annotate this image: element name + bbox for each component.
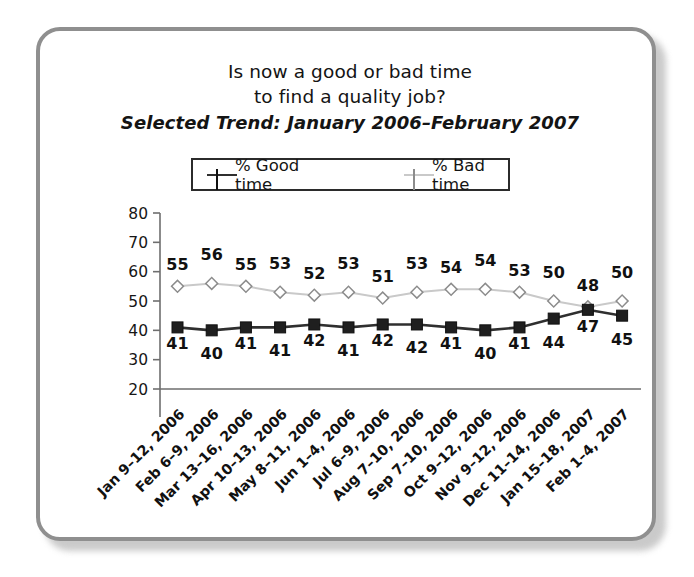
data-point-label: 42 (406, 338, 428, 357)
data-point-marker (309, 319, 320, 330)
data-point-marker (206, 277, 218, 289)
data-point-label: 41 (440, 334, 462, 353)
data-point-marker (343, 322, 354, 333)
y-tick-label: 50 (128, 293, 148, 311)
data-point-label: 54 (440, 258, 462, 277)
data-point-marker (275, 322, 286, 333)
data-point-label: 41 (508, 334, 530, 353)
data-point-marker (582, 304, 593, 315)
line-chart-svg: 20304050607080 5556555352535153545453504… (40, 31, 660, 545)
data-point-label: 47 (577, 317, 599, 336)
data-point-marker (445, 283, 457, 295)
y-tick-label: 40 (128, 322, 148, 340)
data-point-marker (411, 286, 423, 298)
data-point-marker (343, 286, 355, 298)
data-point-marker (172, 322, 183, 333)
x-tick-labels: Jan 9–12, 2006Feb 6–9, 2006Mar 13–16, 20… (93, 406, 632, 511)
data-labels-bad-time: 5556555352535153545453504850 (166, 245, 633, 294)
series-bad-time (172, 277, 628, 312)
data-point-marker (514, 322, 525, 333)
data-point-marker (377, 319, 388, 330)
data-point-label: 50 (543, 263, 565, 282)
y-tick-label: 70 (128, 234, 148, 252)
chart-page: Is now a good or bad time to find a qual… (0, 0, 694, 577)
data-point-label: 44 (543, 333, 565, 352)
data-point-marker (616, 295, 628, 307)
data-point-label: 54 (474, 251, 496, 270)
y-tick-label: 20 (128, 381, 148, 399)
data-point-label: 55 (166, 255, 188, 274)
y-tick-label: 60 (128, 263, 148, 281)
data-point-marker (514, 286, 526, 298)
data-point-label: 41 (235, 334, 257, 353)
data-point-label: 52 (303, 264, 325, 283)
data-point-marker (548, 295, 560, 307)
data-point-label: 53 (406, 254, 428, 273)
data-point-marker (172, 280, 184, 292)
data-point-marker (274, 286, 286, 298)
data-point-marker (548, 313, 559, 324)
data-point-label: 53 (337, 254, 359, 273)
series-good-time (172, 304, 628, 336)
data-point-label: 56 (201, 245, 223, 264)
data-point-marker (617, 310, 628, 321)
data-point-label: 42 (303, 331, 325, 350)
data-point-label: 41 (269, 341, 291, 360)
chart-card: Is now a good or bad time to find a qual… (36, 27, 656, 541)
data-point-label: 45 (611, 330, 633, 349)
data-point-label: 53 (269, 254, 291, 273)
data-point-marker (377, 292, 389, 304)
y-axis: 20304050607080 (128, 205, 160, 418)
data-point-label: 42 (372, 331, 394, 350)
data-point-marker (206, 325, 217, 336)
data-point-marker (480, 325, 491, 336)
data-point-marker (411, 319, 422, 330)
data-point-marker (308, 289, 320, 301)
y-tick-label: 80 (128, 205, 148, 223)
data-point-marker (446, 322, 457, 333)
plot-area: 20304050607080 5556555352535153545453504… (40, 31, 660, 545)
data-point-marker (479, 283, 491, 295)
data-point-marker (240, 280, 252, 292)
data-point-label: 55 (235, 255, 257, 274)
data-point-label: 40 (474, 344, 496, 363)
data-point-label: 41 (166, 334, 188, 353)
data-point-label: 50 (611, 263, 633, 282)
data-point-marker (240, 322, 251, 333)
data-point-label: 40 (201, 344, 223, 363)
data-point-label: 48 (577, 276, 599, 295)
data-point-label: 53 (508, 261, 530, 280)
y-tick-label: 30 (128, 351, 148, 369)
data-point-label: 51 (372, 267, 394, 286)
data-point-label: 41 (337, 341, 359, 360)
